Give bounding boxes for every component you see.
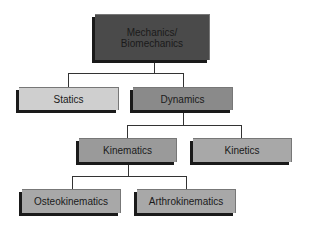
connector-to-statics (68, 73, 69, 87)
node-label: Statics (53, 94, 83, 105)
node-label-line2: Biomechanics (121, 38, 183, 49)
node-osteokinematics: Osteokinematics (22, 189, 121, 213)
connector-to-kinetics (241, 125, 242, 138)
connector-kinematics-horizontal (72, 176, 187, 177)
node-label-line1: Mechanics/ (127, 27, 178, 38)
connector-root-down (154, 60, 155, 74)
node-label: Kinetics (224, 145, 259, 156)
connector-to-dynamics (183, 73, 184, 87)
node-dynamics: Dynamics (133, 87, 233, 110)
connector-root-horizontal (68, 73, 184, 74)
node-label: Osteokinematics (34, 196, 108, 207)
connector-dynamics-down (183, 112, 184, 126)
connector-kinematics-down (128, 163, 129, 177)
node-kinetics: Kinetics (193, 138, 292, 162)
connector-dynamics-horizontal (127, 125, 242, 126)
node-label: Dynamics (161, 94, 205, 105)
connector-to-osteokinematics (72, 176, 73, 189)
node-kinematics: Kinematics (79, 138, 177, 162)
node-label: Arthrokinematics (149, 196, 223, 207)
connector-to-kinematics (127, 125, 128, 138)
node-statics: Statics (19, 87, 119, 110)
node-mechanics-biomechanics: Mechanics/ Biomechanics (95, 14, 210, 60)
connector-to-arthrokinematics (186, 176, 187, 189)
node-label: Kinematics (103, 145, 152, 156)
node-arthrokinematics: Arthrokinematics (137, 189, 236, 213)
